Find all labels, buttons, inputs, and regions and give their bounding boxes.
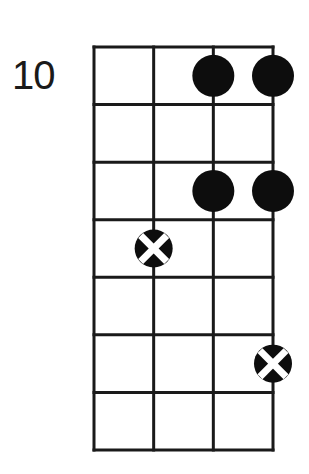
- fretboard-diagram: [0, 0, 309, 474]
- filled-dot-icon: [252, 170, 294, 212]
- x-dot-icon: [135, 230, 173, 268]
- filled-dot-icon: [192, 55, 234, 97]
- x-dot-icon: [254, 345, 292, 383]
- filled-dot-icon: [192, 170, 234, 212]
- filled-dot-icon: [252, 55, 294, 97]
- fretboard-grid: [94, 47, 273, 450]
